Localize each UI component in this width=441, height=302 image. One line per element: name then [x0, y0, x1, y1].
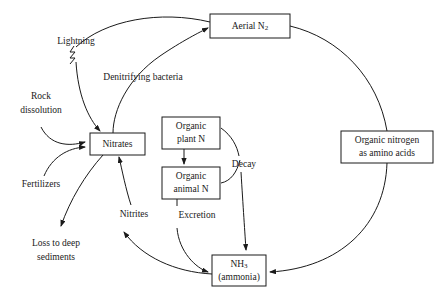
node-organic-animal-n: Organic animal N [162, 167, 220, 199]
edge-label-excretion: Excretion [179, 210, 216, 220]
edge-nitrites-to-nitrates [119, 157, 131, 205]
node-label-organic-nitrogen-line2: as amino acids [359, 148, 415, 158]
node-label-organic-animal-n-line1: Organic [176, 171, 206, 181]
edge-lightning-down-to-nitrates [76, 62, 100, 131]
edge-decay-from-plant [221, 128, 239, 156]
edge-excretion-to-ammonia [177, 228, 208, 272]
node-label-organic-animal-n-line2: animal N [173, 184, 208, 194]
node-label-ammonia-line2: (ammonia) [218, 272, 260, 283]
edge-label-lightning: Lightning [57, 36, 95, 46]
node-ammonia: NH3 (ammonia) [212, 255, 266, 286]
node-label-organic-nitrogen-line1: Organic nitrogen [355, 135, 420, 145]
edge-label-loss-deep-sediments-line1: Loss to deep [32, 238, 80, 248]
edge-label-fertilizers: Fertilizers [22, 179, 61, 189]
lightning-bolt-icon [70, 46, 75, 64]
node-label-organic-plant-n-line2: plant N [177, 134, 205, 144]
edge-label-rock-dissolution-line1: Rock [31, 91, 51, 101]
nitrogen-cycle-canvas: Aerial N2 Nitrates Organic plant N Organ… [0, 0, 441, 302]
node-nitrates: Nitrates [90, 133, 145, 155]
edge-decay-to-ammonia [241, 172, 246, 250]
nitrogen-cycle-diagram: Aerial N2 Nitrates Organic plant N Organ… [0, 0, 441, 302]
edge-aerial-to-organic-nitrogen [290, 26, 387, 131]
edge-rock-dissolution-to-nitrates [41, 127, 85, 144]
edge-fertilizers-to-nitrates [44, 147, 85, 176]
edge-label-denitrifying-bacteria: Denitrifying bacteria [103, 72, 183, 82]
edge-lightning-to-nitrates [76, 17, 210, 47]
node-organic-plant-n: Organic plant N [162, 117, 220, 149]
node-aerial-n2: Aerial N2 [210, 14, 290, 38]
node-label-organic-plant-n-line1: Organic [176, 121, 206, 131]
edge-label-decay: Decay [232, 159, 257, 169]
node-label-aerial-n2: Aerial N2 [232, 21, 269, 32]
edge-organic-nitrogen-to-ammonia [270, 163, 387, 272]
edge-label-loss-deep-sediments-line2: sediments [37, 252, 75, 262]
edge-label-nitrites: Nitrites [120, 209, 149, 219]
node-label-nitrates: Nitrates [102, 139, 132, 149]
edge-nitrates-to-loss-deep-sediments [61, 155, 103, 226]
edge-label-rock-dissolution-line2: dissolution [20, 105, 62, 115]
node-organic-nitrogen: Organic nitrogen as amino acids [341, 131, 433, 163]
